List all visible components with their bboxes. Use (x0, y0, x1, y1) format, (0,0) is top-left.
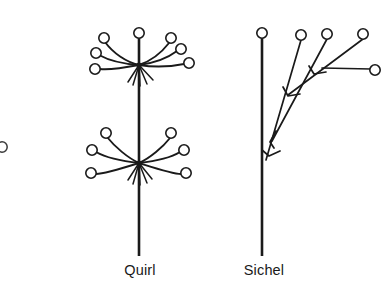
quirl-upper-flower-1 (99, 33, 109, 43)
quirl-caption: Quirl (100, 262, 180, 278)
sichel-flower-3 (358, 29, 368, 39)
quirl-lower-flower-6 (181, 168, 191, 178)
quirl-lower-node-hub (136, 160, 141, 165)
sichel-flower-1 (296, 30, 306, 40)
quirl-apex-flower (134, 28, 144, 38)
quirl-lower-flower-1 (101, 128, 111, 138)
quirl-lower-flower-3 (86, 168, 96, 178)
quirl-upper-node-hub (136, 62, 141, 67)
quirl-upper-flower-3 (90, 64, 100, 74)
quirl-upper-flower-2 (91, 48, 101, 58)
figure-background (0, 0, 383, 290)
quirl-lower-flower-5 (179, 145, 189, 155)
quirl-lower-flower-4 (166, 128, 176, 138)
quirl-upper-flower-4 (166, 33, 176, 43)
sichel-flower-4 (370, 65, 380, 75)
quirl-lower-flower-2 (87, 145, 97, 155)
inflorescence-figure: Quirl Sichel (0, 0, 383, 290)
quirl-upper-flower-5 (176, 44, 186, 54)
sichel-flower-2 (322, 29, 332, 39)
sichel-apex-flower (257, 28, 267, 38)
sichel-caption: Sichel (222, 262, 306, 278)
quirl-upper-flower-6 (184, 58, 194, 68)
figure-canvas (0, 0, 383, 290)
sichel-segment-4 (322, 68, 371, 69)
